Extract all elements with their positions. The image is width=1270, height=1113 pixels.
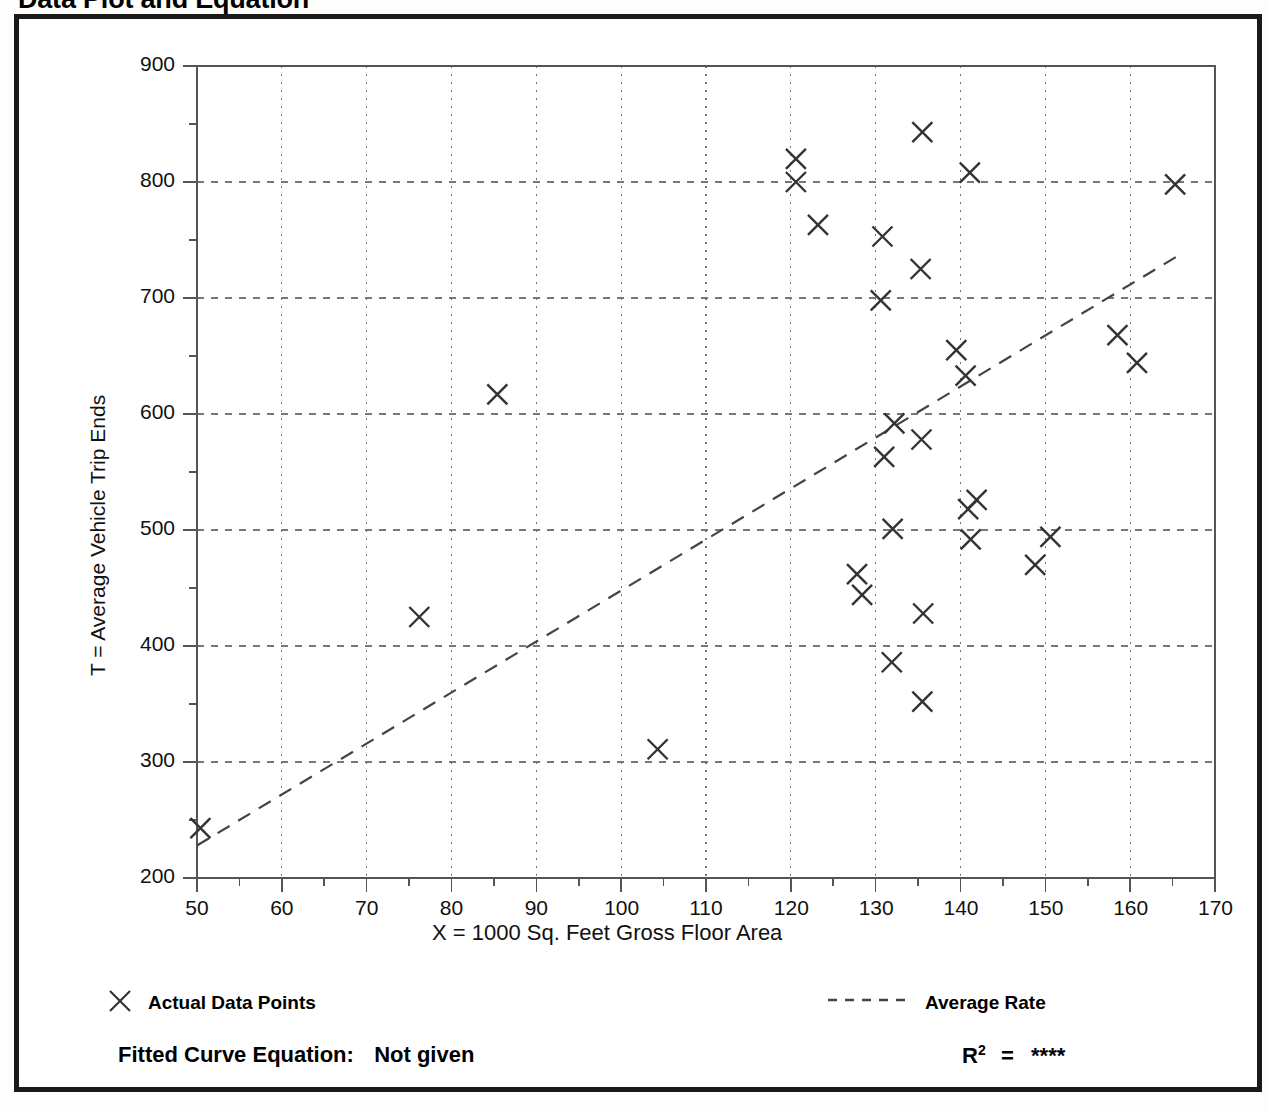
data-point-marker (912, 122, 932, 142)
y-tick-label: 800 (113, 168, 175, 192)
data-point-marker (967, 490, 987, 510)
data-point-marker (913, 604, 933, 624)
data-point-marker (190, 818, 210, 838)
axis-layer (183, 66, 1215, 892)
data-point-marker (871, 290, 891, 310)
legend-x-marker-icon (110, 991, 130, 1011)
r2-exponent: 2 (978, 1042, 986, 1058)
data-points-layer (190, 122, 1185, 838)
y-tick-label: 600 (113, 400, 175, 424)
equation-label: Fitted Curve Equation: (118, 1042, 354, 1067)
data-point-marker (912, 692, 932, 712)
y-tick-label: 500 (113, 516, 175, 540)
data-point-marker (1040, 527, 1060, 547)
y-tick-label: 300 (113, 748, 175, 772)
x-tick-label: 60 (265, 896, 299, 920)
fit-line (197, 254, 1181, 846)
grid-layer (197, 66, 1215, 878)
y-tick-label: 700 (113, 284, 175, 308)
data-point-marker (409, 607, 429, 627)
x-tick-label: 120 (774, 896, 808, 920)
data-point-marker (874, 447, 894, 467)
equation-value: Not given (374, 1042, 474, 1067)
data-point-marker (882, 652, 902, 672)
chart-page: Data Plot and Equation 50607080901001101… (0, 0, 1270, 1113)
data-point-marker (960, 163, 980, 183)
x-tick-label: 130 (859, 896, 893, 920)
y-tick-label: 400 (113, 632, 175, 656)
x-tick-label: 150 (1028, 896, 1062, 920)
data-point-marker (911, 430, 931, 450)
data-point-marker (946, 340, 966, 360)
x-tick-label: 170 (1198, 896, 1232, 920)
chart-figure: 5060708090100110120130140150160170200300… (0, 0, 1270, 1113)
r2-equals: = (1001, 1043, 1014, 1068)
x-tick-label: 70 (350, 896, 384, 920)
data-point-marker (1025, 555, 1045, 575)
legend-marker-label: Actual Data Points (148, 992, 316, 1014)
data-point-marker (786, 149, 806, 169)
x-tick-label: 90 (519, 896, 553, 920)
data-point-marker (1107, 325, 1127, 345)
data-point-marker (911, 259, 931, 279)
fitted-curve-equation: Fitted Curve Equation: Not given (118, 1042, 474, 1068)
y-tick-label: 200 (113, 864, 175, 888)
data-point-marker (808, 215, 828, 235)
x-tick-label: 140 (944, 896, 978, 920)
data-point-marker (1165, 174, 1185, 194)
x-tick-label: 80 (435, 896, 469, 920)
data-point-marker (961, 529, 981, 549)
data-point-marker (872, 227, 892, 247)
x-axis-title: X = 1000 Sq. Feet Gross Floor Area (432, 920, 782, 946)
data-point-marker (648, 739, 668, 759)
data-point-marker (852, 585, 872, 605)
x-tick-label: 100 (604, 896, 638, 920)
data-point-marker (847, 564, 867, 584)
r2-label: R (962, 1043, 978, 1068)
plot-svg (0, 0, 1270, 1113)
y-tick-label: 900 (113, 52, 175, 76)
x-tick-label: 110 (689, 896, 723, 920)
x-tick-label: 50 (180, 896, 214, 920)
data-point-marker (883, 519, 903, 539)
x-tick-label: 160 (1113, 896, 1147, 920)
data-point-marker (487, 384, 507, 404)
r-squared-value: R2 = **** (962, 1042, 1065, 1069)
y-axis-title: T = Average Vehicle Trip Ends (86, 395, 110, 676)
r2-stars: **** (1031, 1043, 1065, 1068)
legend-line-label: Average Rate (925, 992, 1046, 1014)
